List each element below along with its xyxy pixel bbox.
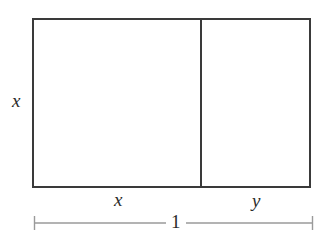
diagram-svg <box>0 0 331 246</box>
label-left-segment-width: x <box>114 190 122 209</box>
label-right-segment-width: y <box>252 191 260 210</box>
label-rectangle-height: x <box>12 91 20 110</box>
label-total-width: 1 <box>166 212 186 231</box>
outer-rectangle <box>33 19 310 187</box>
figure-canvas: x x y 1 <box>0 0 331 246</box>
